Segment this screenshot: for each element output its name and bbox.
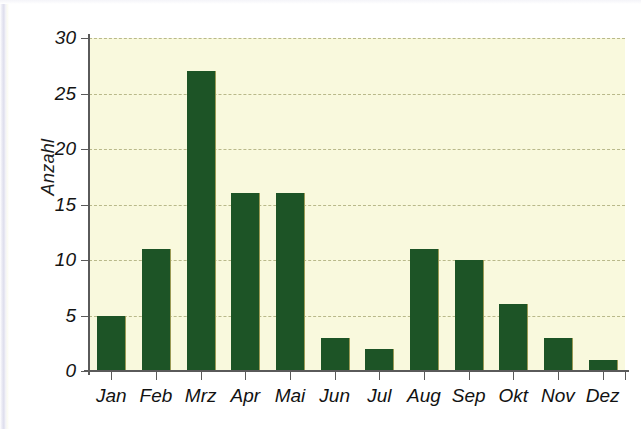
- x-axis-tick-label: Mai: [268, 385, 313, 411]
- x-axis-tick-label: Dez: [580, 385, 625, 411]
- bar: [187, 71, 216, 371]
- x-axis-tick-mark: [379, 371, 380, 380]
- x-axis-tick-mark: [201, 371, 202, 380]
- x-axis-tick-label: Jun: [312, 385, 357, 411]
- bar: [544, 338, 573, 371]
- y-axis-tick-mark: [81, 94, 89, 95]
- bar: [455, 260, 484, 371]
- bar: [365, 349, 394, 371]
- y-axis-tick-mark: [81, 260, 89, 261]
- x-axis-tick-label: Sep: [446, 385, 491, 411]
- x-axis-tick-mark: [111, 371, 112, 380]
- x-axis-tick-mark: [290, 371, 291, 380]
- y-axis-tick-label-wrap: 15: [26, 194, 76, 216]
- x-axis-tick-mark: [558, 371, 559, 380]
- x-axis-tick-mark: [245, 371, 246, 380]
- x-axis-tick-mark: [335, 371, 336, 380]
- x-axis-tick-label: Nov: [536, 385, 581, 411]
- x-axis-tick-label: Feb: [134, 385, 179, 411]
- x-axis-tick-mark: [156, 371, 157, 380]
- x-axis-tick-mark: [424, 371, 425, 380]
- x-axis-tick-label: Jul: [357, 385, 402, 411]
- y-axis-tick-label: 10: [32, 249, 76, 271]
- bar: [231, 193, 260, 371]
- y-axis-tick-label-wrap: 5: [26, 305, 76, 327]
- y-axis-tick-label: 5: [32, 305, 76, 327]
- y-axis-tick-label: 0: [32, 360, 76, 382]
- x-axis-tick-label: Okt: [491, 385, 536, 411]
- gridline: [89, 38, 625, 39]
- y-axis-tick-mark: [81, 316, 89, 317]
- bar: [410, 249, 439, 371]
- y-axis-tick-mark: [81, 38, 89, 39]
- x-axis-tick-mark: [513, 371, 514, 380]
- y-axis-tick-label: 25: [32, 83, 76, 105]
- bar: [97, 316, 126, 372]
- gridline: [89, 205, 625, 206]
- bar: [276, 193, 305, 371]
- y-axis-tick-label-wrap: 0: [26, 360, 76, 382]
- bar: [142, 249, 171, 371]
- bar-chart-figure: Anzahl 051015202530 JanFebMrzAprMaiJunJu…: [0, 0, 641, 429]
- y-axis-tick-label: 20: [32, 138, 76, 160]
- x-axis-tick-label: Jan: [89, 385, 134, 411]
- bar: [499, 304, 528, 371]
- y-axis-tick-mark: [81, 205, 89, 206]
- y-axis-tick-mark: [81, 149, 89, 150]
- x-axis-tick-mark-end: [625, 371, 626, 380]
- y-axis-tick-label: 30: [32, 27, 76, 49]
- x-axis-tick-mark: [603, 371, 604, 380]
- x-axis-tick-label: Mrz: [178, 385, 223, 411]
- y-axis-tick-label-wrap: 30: [26, 27, 76, 49]
- y-axis-tick-mark: [81, 371, 89, 372]
- x-axis-tick-mark: [469, 371, 470, 380]
- x-axis-line: [84, 370, 629, 372]
- y-axis-tick-label-wrap: 20: [26, 138, 76, 160]
- y-axis-tick-label-wrap: 25: [26, 83, 76, 105]
- gridline: [89, 149, 625, 150]
- plot-area: [89, 38, 625, 371]
- gridline: [89, 94, 625, 95]
- y-axis-tick-label-wrap: 10: [26, 249, 76, 271]
- x-axis-tick-label: Apr: [223, 385, 268, 411]
- bar: [321, 338, 350, 371]
- y-axis-tick-label: 15: [32, 194, 76, 216]
- x-axis-tick-label: Aug: [402, 385, 447, 411]
